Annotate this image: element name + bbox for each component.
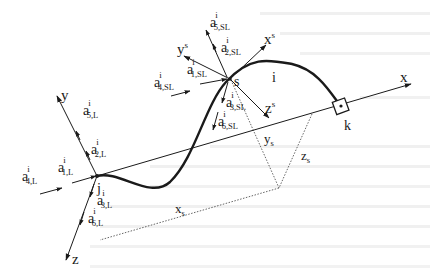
a1L-label: ai1,L (58, 155, 73, 177)
zs-offset-label: zs (301, 148, 310, 165)
offset-projection-lines (100, 80, 312, 240)
element-i-label: i (272, 70, 276, 85)
a4SL-label: ai4,SL (154, 70, 174, 92)
a4L-label: ai4,L (22, 164, 37, 186)
local-z-label: zs (265, 99, 276, 116)
node-k-support (332, 98, 349, 115)
coordinate-diagram: x y z xs ys zs j s k i xs ys zs ai1,L ai… (0, 0, 430, 276)
global-z-label: z (72, 251, 79, 267)
a5L-label: ai5,L (83, 98, 98, 120)
node-s-label: s (234, 74, 239, 89)
a5SL-label: ai5,SL (210, 10, 230, 32)
xs-offset-label: xs (175, 201, 185, 218)
global-x-label: x (400, 69, 408, 85)
node-k-label: k (344, 118, 351, 133)
local-x-label: xs (264, 30, 276, 47)
ys-offset-label: ys (264, 131, 274, 148)
local-y-label: ys (177, 40, 189, 57)
a6SL-label: ai6,SL (218, 109, 238, 131)
a2SL-label: ai2,SL (221, 35, 241, 57)
a3SL-label: ai3,SL (226, 90, 246, 112)
a1SL-label: ai1,SL (187, 57, 207, 79)
global-x-axis (97, 84, 411, 176)
a2L-label: ai2,L (91, 137, 106, 159)
global-y-label: y (61, 87, 69, 103)
